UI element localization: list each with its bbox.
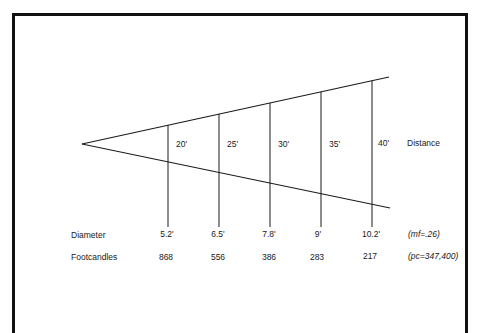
- multiplying-factor-note: (mf=.26): [408, 229, 440, 239]
- diameter-value: 5.2': [160, 229, 173, 239]
- peak-candela-note: (pc=347,400): [408, 251, 458, 261]
- distance-value-20: 20': [176, 139, 187, 149]
- distance-value-25: 25': [227, 139, 238, 149]
- cone-bottom-edge: [82, 144, 390, 208]
- distance-value-40: 40': [378, 138, 389, 148]
- footcandles-value: 556: [211, 252, 225, 262]
- diameter-value: 7.8': [262, 229, 275, 239]
- footcandles-value: 217: [363, 251, 377, 261]
- footcandles-label: Footcandles: [71, 252, 117, 262]
- footcandles-value: 283: [310, 252, 324, 262]
- distance-value-35: 35': [329, 139, 340, 149]
- distance-value-30: 30': [278, 139, 289, 149]
- footcandles-value: 386: [262, 252, 276, 262]
- distance-label: Distance: [407, 138, 440, 148]
- diameter-label: Diameter: [71, 230, 105, 240]
- cone-top-edge: [82, 77, 389, 144]
- diameter-value: 6.5': [211, 229, 224, 239]
- footcandles-value: 868: [159, 252, 173, 262]
- diameter-value: 10.2': [362, 229, 380, 239]
- diameter-value: 9': [315, 229, 321, 239]
